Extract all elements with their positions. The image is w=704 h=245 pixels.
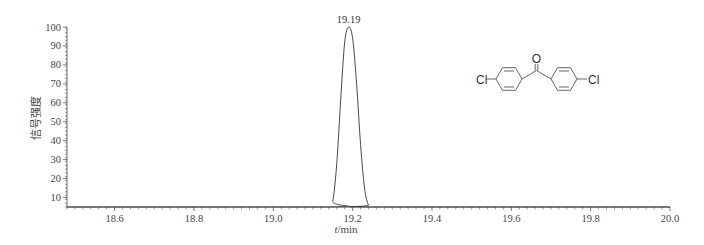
- x-tick-label: 19.0: [264, 213, 282, 224]
- y-tick-label: 80: [51, 59, 62, 70]
- y-tick-label: 40: [51, 135, 62, 146]
- chromatogram-chart: 102030405060708090100 18.618.819.019.219…: [0, 0, 704, 245]
- y-tick-label: 70: [51, 78, 62, 89]
- x-axis-label-unit: /min: [337, 223, 358, 235]
- y-tick-label: 100: [45, 22, 61, 33]
- y-tick-label: 20: [51, 173, 62, 184]
- peak-label: 19.19: [337, 14, 361, 25]
- y-tick-label: 30: [51, 154, 62, 165]
- axes: 102030405060708090100 18.618.819.019.219…: [45, 22, 679, 225]
- bond-left-ring-carbonyl: [522, 71, 537, 80]
- x-tick-label: 19.8: [581, 213, 599, 224]
- chromatogram-trace: [67, 27, 670, 207]
- x-major-ticks: 18.618.819.019.219.419.619.820.0: [105, 207, 679, 224]
- y-axis-label: 信号强度: [29, 96, 43, 140]
- x-tick-label: 20.0: [661, 213, 679, 224]
- x-tick-label: 18.8: [185, 213, 203, 224]
- atom-cl-left: Cl: [476, 73, 487, 87]
- chemical-structure: [486, 64, 587, 90]
- atom-o: O: [532, 52, 541, 66]
- y-tick-label: 90: [51, 40, 62, 51]
- atom-cl-right: Cl: [588, 73, 599, 87]
- y-tick-label: 50: [51, 116, 62, 127]
- y-tick-label: 10: [51, 192, 62, 203]
- x-tick-label: 18.6: [105, 213, 123, 224]
- y-major-ticks: 102030405060708090100: [45, 22, 67, 204]
- y-tick-label: 60: [51, 97, 62, 108]
- x-tick-label: 19.6: [502, 213, 520, 224]
- bond-carbonyl-right-ring: [537, 71, 552, 80]
- x-axis-label: t/min: [334, 223, 358, 235]
- x-tick-label: 19.4: [423, 213, 442, 224]
